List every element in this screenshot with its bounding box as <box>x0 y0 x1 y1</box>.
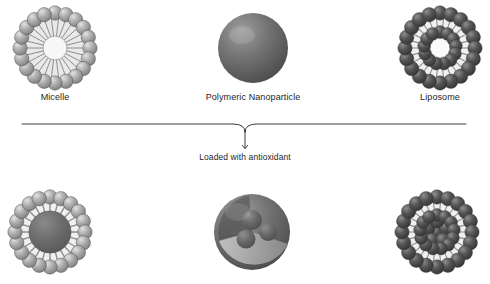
loading-arrow-label: Loaded with antioxidant <box>199 152 291 162</box>
liposome-loaded-outer-head-20 <box>419 192 433 206</box>
caption-polymeric-nanoparticle: Polymeric Nanoparticle <box>206 92 301 103</box>
liposome-outer-head-20 <box>422 8 436 22</box>
liposome-lumen <box>431 39 449 57</box>
nanoparticle-loaded-highlight <box>225 203 251 221</box>
caption-liposome: Liposome <box>420 92 460 103</box>
micelle-loaded-core <box>29 211 71 253</box>
liposome-loaded-inner-head-13 <box>423 211 436 224</box>
process-divider <box>22 124 466 132</box>
particle-polymeric-nanoparticle <box>218 13 288 83</box>
micelle-head-20 <box>37 8 51 22</box>
micelle-core <box>43 36 67 60</box>
liposome-inner-head-13 <box>426 27 439 40</box>
micelle-loaded-head-20 <box>32 192 46 206</box>
nanoparticle-sphere <box>218 13 288 83</box>
cargo-sphere-2 <box>259 223 277 241</box>
particle-liposome-loaded <box>395 190 479 274</box>
nanocarrier-figure: Micelle Polymeric Nanoparticle Liposome … <box>0 0 490 284</box>
particle-micelle <box>13 6 97 90</box>
particle-liposome <box>398 6 482 90</box>
cargo-sphere-3 <box>237 230 256 249</box>
particle-polymeric-nanoparticle-loaded <box>214 194 290 270</box>
figure-canvas <box>0 0 490 284</box>
nanoparticle-highlight <box>229 26 255 44</box>
particle-micelle-loaded <box>8 190 92 274</box>
caption-micelle: Micelle <box>41 92 70 103</box>
